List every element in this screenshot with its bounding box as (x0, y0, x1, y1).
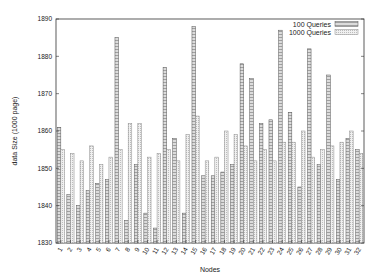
x-tick-label: 15 (189, 246, 199, 256)
bar-1000-queries (273, 161, 277, 243)
y-tick-label: 1830 (38, 239, 53, 246)
x-tick-label: 12 (160, 246, 170, 256)
bar-100-queries (356, 150, 360, 243)
x-tick-label: 24 (275, 246, 285, 256)
y-tick-label: 1880 (38, 53, 53, 60)
x-tick-label: 3 (75, 246, 83, 253)
x-tick-label: 23 (266, 246, 276, 256)
bar-1000-queries (167, 150, 171, 243)
bar-100-queries (125, 221, 129, 243)
bar-chart: 1830184018501860187018801890 12345678910… (0, 0, 385, 280)
bar-1000-queries (176, 161, 180, 243)
bar-1000-queries (311, 157, 315, 243)
x-tick-label: 32 (352, 246, 362, 256)
bar-1000-queries (292, 142, 296, 243)
bar-100-queries (317, 165, 321, 243)
x-tick-label: 19 (227, 246, 237, 256)
bars-group (57, 26, 363, 243)
x-axis-label: Nodes (200, 266, 221, 273)
bar-1000-queries (234, 135, 238, 243)
bar-1000-queries (138, 124, 142, 243)
bar-1000-queries (61, 150, 65, 243)
bar-1000-queries (147, 157, 151, 243)
bar-100-queries (279, 30, 283, 243)
x-tick-label: 1 (56, 246, 64, 253)
bar-100-queries (134, 165, 138, 243)
x-tick-label: 28 (314, 246, 324, 256)
x-tick-label: 8 (123, 246, 131, 253)
bar-100-queries (153, 228, 157, 243)
x-tick-label: 30 (333, 246, 343, 256)
bar-1000-queries (157, 153, 161, 243)
bar-1000-queries (253, 161, 257, 243)
bar-1000-queries (224, 131, 228, 243)
bar-100-queries (230, 165, 234, 243)
bar-1000-queries (80, 161, 84, 243)
bar-100-queries (144, 213, 148, 243)
bar-100-queries (269, 120, 273, 243)
y-tick-label: 1860 (38, 127, 53, 134)
bar-1000-queries (196, 116, 200, 243)
bar-1000-queries (350, 131, 354, 243)
bar-1000-queries (301, 131, 305, 243)
x-tick-label: 5 (94, 246, 102, 253)
bar-1000-queries (330, 146, 334, 243)
bar-1000-queries (359, 153, 363, 243)
x-tick-label: 31 (343, 246, 353, 256)
bar-100-queries (76, 206, 80, 243)
y-axis-label: data Size (1000 page) (11, 97, 19, 166)
bar-1000-queries (282, 142, 286, 243)
x-tick-label: 13 (169, 246, 179, 256)
bar-100-queries (336, 180, 340, 243)
legend-swatch (335, 22, 358, 27)
bar-100-queries (259, 124, 263, 243)
x-tick-label: 25 (285, 246, 295, 256)
bar-100-queries (86, 191, 90, 243)
legend-label: 100 Queries (293, 21, 332, 29)
bar-100-queries (346, 138, 350, 243)
bar-1000-queries (109, 157, 113, 243)
bar-100-queries (67, 194, 71, 243)
bar-100-queries (173, 138, 177, 243)
x-tick-label: 16 (198, 246, 208, 256)
bar-1000-queries (119, 150, 123, 243)
x-tick-label: 7 (114, 246, 122, 253)
x-tick-label: 18 (218, 246, 228, 256)
bar-100-queries (57, 127, 61, 243)
bar-1000-queries (99, 165, 103, 243)
x-tick-label: 20 (237, 246, 247, 256)
bar-1000-queries (205, 161, 209, 243)
bar-100-queries (221, 172, 225, 243)
y-tick-label: 1840 (38, 202, 53, 209)
bar-100-queries (327, 75, 331, 243)
x-tick-label: 10 (141, 246, 151, 256)
x-tick-label: 27 (304, 246, 314, 256)
x-tick-label: 17 (208, 246, 218, 256)
bar-100-queries (182, 213, 186, 243)
x-tick-label: 11 (150, 246, 160, 256)
bar-100-queries (163, 68, 167, 243)
y-tick-label: 1850 (38, 165, 53, 172)
bar-1000-queries (215, 157, 219, 243)
bar-100-queries (192, 26, 196, 243)
bar-100-queries (211, 176, 215, 243)
bar-100-queries (307, 49, 311, 243)
bar-1000-queries (263, 150, 267, 243)
bar-1000-queries (186, 135, 190, 243)
x-tick-label: 2 (65, 246, 73, 253)
bar-100-queries (105, 180, 109, 243)
x-tick-label: 26 (295, 246, 305, 256)
legend-label: 1000 Queries (289, 29, 332, 37)
x-tick-label: 14 (179, 246, 189, 256)
bar-100-queries (202, 176, 206, 243)
bar-1000-queries (340, 142, 344, 243)
x-tick-label: 22 (256, 246, 266, 256)
bar-1000-queries (90, 146, 94, 243)
y-tick-label: 1870 (38, 90, 53, 97)
bar-100-queries (288, 112, 292, 243)
bar-100-queries (298, 187, 302, 243)
x-tick-label: 6 (104, 246, 112, 253)
x-tick-label: 4 (85, 246, 93, 253)
bar-100-queries (115, 38, 119, 243)
bar-1000-queries (70, 153, 74, 243)
